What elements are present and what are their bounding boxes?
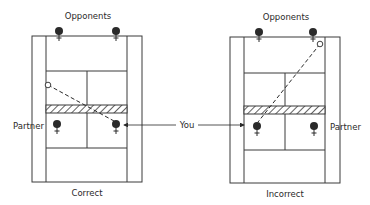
diagram-canvas: OpponentsPartnerCorrect OpponentsPartner… [0, 0, 370, 205]
player-head-icon [310, 122, 318, 130]
player-head-icon [112, 27, 120, 35]
ball-icon [317, 41, 323, 47]
doubles-positioning-diagram: OpponentsPartnerCorrect OpponentsPartner… [0, 0, 370, 205]
net [244, 106, 325, 114]
you-label: You [179, 120, 195, 130]
player-head-icon [55, 27, 63, 35]
you-player [253, 122, 261, 136]
court-caption-correct: Correct [71, 188, 103, 198]
partner-player [310, 122, 318, 136]
opponents-label: Opponents [263, 12, 310, 22]
opponents-label: Opponents [65, 11, 112, 21]
player-head-icon [53, 120, 61, 128]
player-head-icon [255, 28, 263, 36]
opponent-player-2 [112, 27, 120, 41]
player-head-icon [309, 28, 317, 36]
ball-icon [45, 82, 51, 88]
opponent-player-2 [309, 28, 317, 42]
net [46, 105, 127, 113]
opponent-player-1 [255, 28, 263, 42]
court-caption-incorrect: Incorrect [266, 189, 304, 199]
you-player [112, 120, 120, 134]
partner-label: Partner [330, 122, 361, 132]
ball-path-dashed [48, 85, 114, 121]
court-incorrect: OpponentsPartnerIncorrect [230, 12, 361, 199]
court-correct: OpponentsPartnerCorrect [13, 11, 142, 198]
partner-label: Partner [13, 121, 44, 131]
opponent-player-1 [55, 27, 63, 41]
partner-player [53, 120, 61, 134]
player-head-icon [253, 122, 261, 130]
player-head-icon [112, 120, 120, 128]
